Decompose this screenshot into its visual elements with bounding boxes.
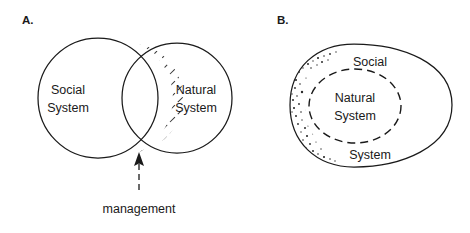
natural-system-inner-shape xyxy=(309,69,401,143)
intersection-hatching xyxy=(100,0,200,233)
management-callout: management xyxy=(103,152,176,216)
panel-a-label: A. xyxy=(22,14,34,26)
systems-diagram: A. xyxy=(0,0,470,233)
social-system-label-line2: System xyxy=(47,101,89,115)
panel-b-natural-label-line1: Natural xyxy=(335,91,375,105)
social-system-label-line1: Social xyxy=(51,83,85,97)
natural-system-circle xyxy=(122,43,232,153)
panel-a-group: A. xyxy=(22,0,232,233)
panel-b-group: B. xyxy=(277,14,452,167)
panel-b-system-label: System xyxy=(349,148,391,162)
natural-system-label-line2: System xyxy=(175,101,217,115)
management-label: management xyxy=(103,202,176,216)
figure-root: A. xyxy=(0,0,470,233)
boundary-stipple xyxy=(291,51,336,161)
social-system-circle xyxy=(38,38,158,158)
panel-b-natural-label-line2: System xyxy=(334,109,376,123)
natural-system-label-line1: Natural xyxy=(176,83,216,97)
management-arrow-head xyxy=(134,152,144,166)
panel-b-label: B. xyxy=(277,14,289,26)
panel-b-social-label: Social xyxy=(353,55,387,69)
